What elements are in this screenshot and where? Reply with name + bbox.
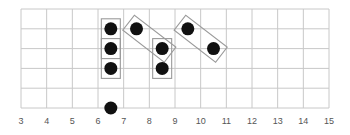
dot	[104, 62, 117, 75]
x-tick-label: 9	[172, 116, 177, 126]
dot	[130, 22, 143, 35]
x-tick-label: 7	[121, 116, 126, 126]
x-tick-label: 13	[273, 116, 283, 126]
x-tick-label: 14	[298, 116, 308, 126]
grid-lines	[21, 9, 329, 108]
x-tick-label: 15	[324, 116, 334, 126]
x-tick-label: 6	[95, 116, 100, 126]
x-axis-labels: 3456789101112131415	[18, 116, 334, 126]
x-tick-label: 4	[44, 116, 49, 126]
dot	[207, 42, 220, 55]
dot	[156, 42, 169, 55]
dot	[104, 102, 117, 115]
x-tick-label: 10	[196, 116, 206, 126]
dot	[181, 22, 194, 35]
dot	[104, 42, 117, 55]
x-tick-label: 12	[247, 116, 257, 126]
x-tick-label: 8	[147, 116, 152, 126]
dot	[156, 62, 169, 75]
x-tick-label: 3	[18, 116, 23, 126]
diagram-canvas: 3456789101112131415	[0, 0, 350, 135]
dot-grid-diagram: 3456789101112131415	[0, 0, 350, 135]
x-tick-label: 11	[222, 116, 231, 126]
x-tick-label: 5	[70, 116, 75, 126]
dot	[104, 22, 117, 35]
